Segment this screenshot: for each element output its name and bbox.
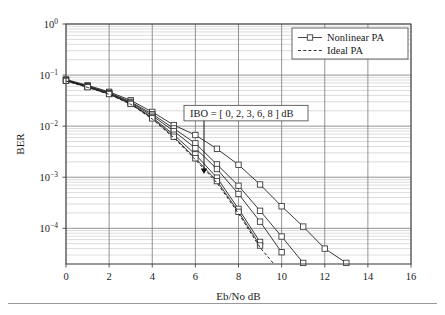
- x-tick-label: 10: [276, 271, 287, 282]
- x-tick-label: 6: [193, 271, 198, 282]
- y-tick-label: 10−3: [40, 170, 59, 183]
- legend[interactable]: Nonlinear PAIdeal PA: [292, 28, 408, 59]
- y-tick-label: 100: [44, 17, 59, 30]
- ber-chart-figure: 024681012141610010−110−210−310−4Eb/No dB…: [0, 0, 445, 315]
- legend-label: Ideal PA: [327, 45, 363, 56]
- y-axis-label: BER: [14, 133, 26, 155]
- x-tick-label: 16: [406, 271, 417, 282]
- x-tick-label: 2: [107, 271, 112, 282]
- x-tick-label: 0: [63, 271, 68, 282]
- page-divider-rule: [8, 303, 437, 304]
- y-tick-label: 10−2: [40, 119, 59, 132]
- y-tick-label: 10−4: [40, 221, 59, 234]
- x-tick-label: 12: [320, 271, 331, 282]
- legend-label: Nonlinear PA: [327, 32, 384, 43]
- legend-swatch-square-marker: [307, 35, 312, 40]
- x-tick-label: 14: [363, 271, 374, 282]
- chart-canvas: 024681012141610010−110−210−310−4Eb/No dB…: [0, 0, 445, 315]
- annotation-text: IBO = [ 0, 2, 3, 6, 8 ] dB: [190, 108, 294, 119]
- x-tick-label: 4: [150, 271, 156, 282]
- x-axis-label: Eb/No dB: [216, 290, 260, 302]
- x-tick-label: 8: [236, 271, 241, 282]
- y-tick-label: 10−1: [40, 68, 59, 81]
